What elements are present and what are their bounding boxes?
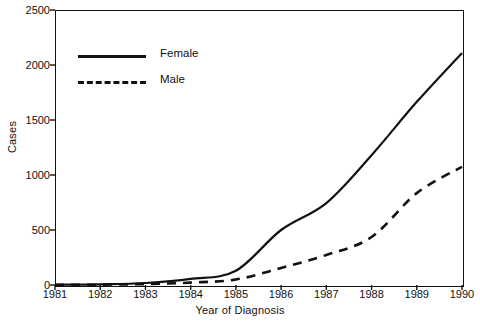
x-tick-label: 1984	[166, 288, 216, 300]
legend-item-male: Male	[78, 70, 248, 96]
x-tick-label: 1987	[301, 288, 351, 300]
x-tick-label: 1982	[75, 288, 125, 300]
chart-legend: Female Male	[78, 44, 248, 96]
chart-figure: Cases 05001000150020002500 Female Male 1…	[0, 0, 480, 322]
x-tick-label: 1988	[347, 288, 397, 300]
x-tick-label: 1981	[30, 288, 80, 300]
x-tick-label: 1986	[256, 288, 306, 300]
x-tick-label: 1985	[211, 288, 261, 300]
series-line-male	[55, 167, 462, 285]
legend-label-female: Female	[160, 47, 198, 59]
legend-key-dashed-line-icon	[78, 81, 146, 84]
legend-item-female: Female	[78, 44, 248, 70]
x-tick-label: 1983	[120, 288, 170, 300]
x-tick-label: 1990	[437, 288, 480, 300]
legend-label-male: Male	[160, 73, 185, 85]
x-tick-label: 1989	[392, 288, 442, 300]
legend-key-solid-line-icon	[78, 55, 146, 58]
x-axis-label: Year of Diagnosis	[0, 304, 480, 316]
